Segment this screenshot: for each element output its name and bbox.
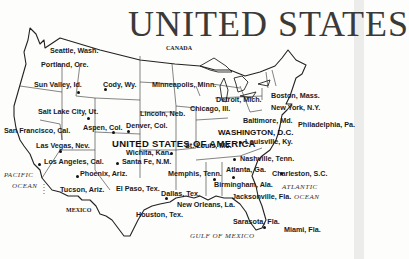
city-minneapolis: Minneapolis, Minn.	[152, 81, 216, 89]
city-chicago: Chicago, Ill.	[190, 105, 230, 113]
city-nashville: Nashville, Tenn.	[240, 155, 294, 163]
city-philadelphia: Philadelphia, Pa.	[298, 121, 355, 129]
city-houston: Houston, Tex.	[136, 211, 183, 219]
city-dot	[213, 178, 216, 181]
city-los-angeles: Los Angeles, Cal.	[44, 158, 104, 166]
label-atlantic-2: OCEAN	[294, 193, 319, 201]
city-dot	[38, 163, 41, 166]
city-tucson: Tucson, Ariz.	[60, 186, 104, 194]
city-louisville: Louisville, Ky.	[245, 138, 293, 146]
label-washington-dc: WASHINGTON, D.C.	[218, 128, 293, 137]
city-dot	[233, 158, 236, 161]
city-sarasota: Sarasota, Fla.	[233, 218, 280, 226]
city-aspen: Aspen, Col.	[83, 124, 123, 132]
city-miami: Miami, Fla.	[284, 226, 321, 234]
city-wichita: Wichita, Kan.	[126, 149, 171, 157]
city-dot	[112, 131, 115, 134]
city-dot	[87, 117, 90, 120]
city-dot	[77, 91, 80, 94]
city-atlanta: Atlanta, Ga.	[226, 166, 266, 174]
city-sun-valley: Sun Valley, Id.	[34, 81, 82, 89]
city-salt-lake-city: Salt Lake City, Ut.	[38, 108, 98, 116]
city-detroit: Detroit, Mich.	[216, 96, 262, 104]
city-denver: Denver, Col.	[126, 122, 168, 130]
city-st-louis: St. Louis, Mo.	[185, 142, 232, 150]
city-new-orleans: New Orleans, La.	[177, 201, 235, 209]
label-gulf-of-mexico: GULF OF MEXICO	[190, 232, 255, 240]
city-dot	[76, 175, 79, 178]
city-new-york: New York, N.Y.	[271, 104, 320, 112]
city-dot	[170, 152, 173, 155]
city-dot	[232, 176, 235, 179]
city-boston: Boston, Mass.	[271, 92, 320, 100]
city-dot	[263, 226, 266, 229]
city-jacksonville: Jacksonville, Fla.	[232, 193, 291, 201]
city-dot	[59, 150, 62, 153]
city-cody: Cody, Wy.	[103, 81, 137, 89]
city-portland: Portland, Ore.	[41, 61, 89, 69]
city-dot	[280, 172, 283, 175]
city-memphis: Memphis, Tenn.	[168, 170, 222, 178]
city-las-vegas: Las Vegas, Nev.	[36, 142, 90, 150]
city-el-paso: El Paso, Tex.	[116, 185, 160, 193]
city-santa-fe: Santa Fe, N.M.	[122, 158, 171, 166]
city-dot	[104, 88, 107, 91]
city-san-francisco: San Francisco, Cal.	[4, 127, 70, 135]
city-dot	[116, 162, 119, 165]
label-pacific-2: OCEAN	[12, 182, 37, 190]
label-mexico: MEXICO	[66, 207, 91, 213]
city-dot	[165, 197, 168, 200]
city-birmingham: Birmingham, Ala.	[214, 181, 273, 189]
label-atlantic-1: ATLANTIC	[282, 183, 318, 191]
city-dot	[239, 141, 242, 144]
city-dot	[127, 130, 130, 133]
label-pacific-1: PACIFIC	[4, 171, 33, 179]
city-lincoln: Lincoln, Neb.	[140, 110, 185, 118]
city-seattle: Seattle, Wash.	[50, 47, 98, 55]
city-baltimore: Baltimore, Md.	[243, 117, 293, 125]
map-title: UNITED STATES	[128, 6, 409, 42]
label-canada: CANADA	[166, 45, 192, 51]
city-phoenix: Phoenix, Ariz.	[80, 170, 127, 178]
